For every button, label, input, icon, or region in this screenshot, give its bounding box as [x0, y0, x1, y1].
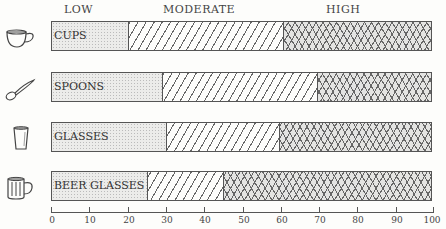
tick-label: 80 [352, 215, 363, 225]
glass-icon [4, 124, 36, 152]
tick [204, 207, 205, 213]
segment-high [279, 123, 431, 151]
tick-label: 20 [123, 215, 134, 225]
tick [243, 207, 244, 213]
spoon-icon [4, 74, 36, 102]
row-label: CUPS [54, 29, 87, 42]
segment-moderate [147, 172, 223, 200]
tick-label: 10 [84, 215, 95, 225]
header-high: HIGH [326, 3, 360, 16]
tick [319, 207, 320, 213]
row-label: GLASSES [54, 130, 108, 143]
tick-label: 90 [391, 215, 402, 225]
tick [396, 207, 397, 213]
tick-label: 100 [423, 215, 440, 225]
tick [433, 207, 434, 213]
tick [89, 207, 90, 213]
tick-label: 60 [276, 215, 287, 225]
cup-icon [4, 23, 36, 51]
header-moderate: MODERATE [163, 3, 235, 16]
segment-high [223, 172, 431, 200]
tick-label: 40 [199, 215, 210, 225]
beer-mug-icon [4, 173, 36, 201]
bar-row-spoons: SPOONS [0, 72, 446, 104]
tick-label: 50 [238, 215, 249, 225]
stacked-bar-spoons: SPOONS [51, 72, 432, 102]
segment-moderate [162, 73, 317, 101]
stacked-bar-glasses: GLASSES [51, 122, 432, 152]
bar-row-glasses: GLASSES [0, 122, 446, 154]
segment-moderate [166, 123, 280, 151]
stacked-bar-cups: CUPS [51, 21, 432, 51]
tick [166, 207, 167, 213]
tick-label: 30 [161, 215, 172, 225]
tick-label: 0 [49, 215, 55, 225]
segment-moderate [128, 22, 283, 50]
row-label: BEER GLASSES [54, 179, 144, 192]
tick [281, 207, 282, 213]
tick [357, 207, 358, 213]
tick [51, 207, 52, 213]
tick [128, 207, 129, 213]
segment-high [283, 22, 431, 50]
bar-row-beer-glasses: BEER GLASSES [0, 171, 446, 203]
row-label: SPOONS [54, 80, 104, 93]
stacked-bar-beer-glasses: BEER GLASSES [51, 171, 432, 201]
tick-label: 70 [314, 215, 325, 225]
bar-row-cups: CUPS [0, 21, 446, 53]
segment-high [317, 73, 431, 101]
header-low: LOW [64, 3, 93, 16]
